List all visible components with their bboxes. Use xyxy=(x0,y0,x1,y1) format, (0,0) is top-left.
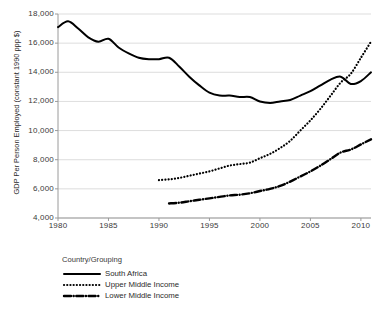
legend-title: Country/Grouping xyxy=(62,255,302,265)
legend: Country/Grouping South AfricaUpper Middl… xyxy=(62,255,302,301)
legend-entry: Upper Middle Income xyxy=(62,279,302,290)
gdp-per-person-employed-line-chart: GDP Per Person Employed (constant 1990 p… xyxy=(0,0,380,313)
legend-entry: Lower Middle Income xyxy=(62,290,302,301)
legend-entry-label: Upper Middle Income xyxy=(105,279,179,290)
legend-entry-label: Lower Middle Income xyxy=(105,290,179,301)
series-line-lower-middle-income xyxy=(169,139,371,203)
legend-entries: South AfricaUpper Middle IncomeLower Mid… xyxy=(62,268,302,301)
legend-line-sample xyxy=(62,279,102,290)
series-line-south-africa xyxy=(58,21,371,103)
legend-entry: South Africa xyxy=(62,268,302,279)
legend-entry-label: South Africa xyxy=(105,268,147,279)
legend-line-sample xyxy=(62,290,102,301)
legend-line-sample xyxy=(62,268,102,279)
